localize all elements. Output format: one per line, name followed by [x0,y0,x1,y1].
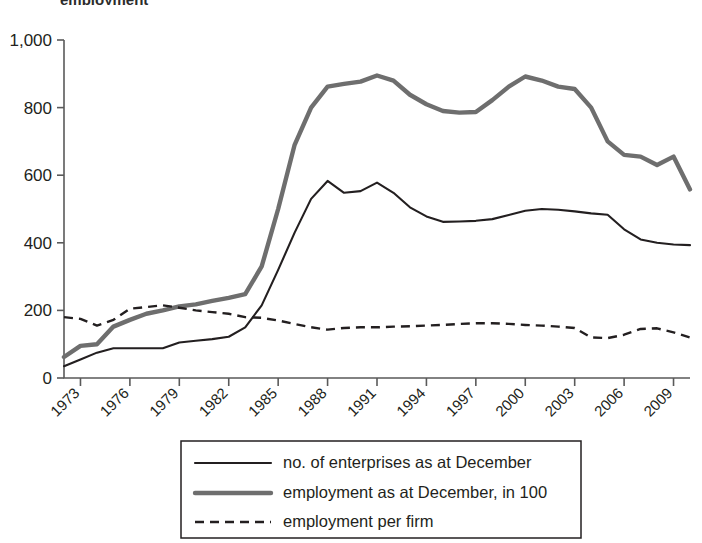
line-chart: 02004006008001,0001973197619791982198519… [0,0,702,543]
y-tick-label-0: 0 [43,369,52,388]
x-tick-label-1979: 1979 [146,384,182,420]
y-tick-label-1000: 1,000 [9,31,52,50]
x-tick-label-2006: 2006 [591,384,627,420]
x-tick-label-2003: 2003 [541,384,577,420]
y-tick-label-400: 400 [24,234,52,253]
x-tick-label-1982: 1982 [195,384,231,420]
y-tick-label-800: 800 [24,99,52,118]
x-tick-label-1997: 1997 [442,384,478,420]
x-tick-label-2009: 2009 [640,384,676,420]
x-tick-label-1973: 1973 [47,384,83,420]
chart-legend: no. of enterprises as at Decemberemploym… [181,441,581,538]
x-tick-label-1976: 1976 [96,384,132,420]
x-tick-label-1991: 1991 [344,384,380,420]
x-tick-label-1988: 1988 [294,384,330,420]
legend-label-3: employment per firm [283,512,433,530]
series-line-employment [64,75,690,357]
x-tick-label-2000: 2000 [492,384,528,420]
legend-label-2: employment as at December, in 100 [283,483,547,501]
x-tick-label-1994: 1994 [393,384,429,420]
y-tick-label-600: 600 [24,166,52,185]
chart-title-remnant: employment [60,0,260,5]
chart-figure: employment 02004006008001,00019731976197… [0,0,702,543]
x-tick-label-1985: 1985 [245,384,281,420]
legend-label-1: no. of enterprises as at December [283,453,532,471]
y-tick-label-200: 200 [24,301,52,320]
